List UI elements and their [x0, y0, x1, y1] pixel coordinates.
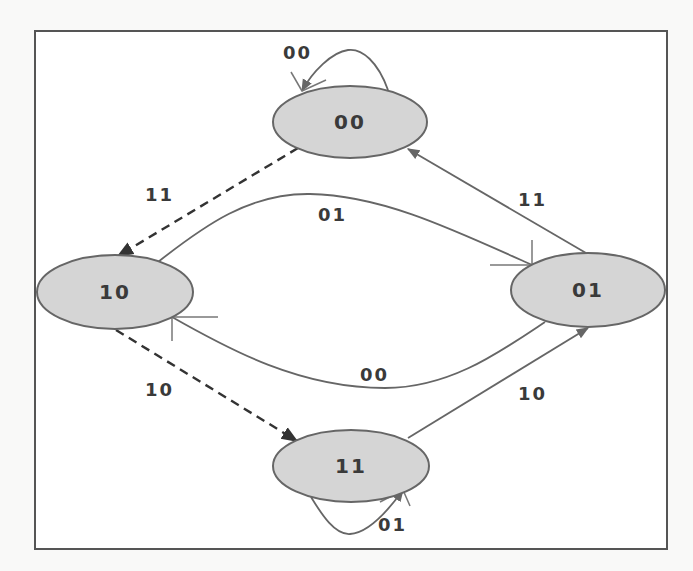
transition-label-01-00: 11 [518, 189, 547, 210]
state-label-00: 00 [334, 110, 366, 134]
transition-label-00-10: 11 [145, 184, 174, 205]
transition-label-11-01: 10 [518, 383, 547, 404]
transition-label-10-01: 01 [318, 204, 347, 225]
state-01: 01 [511, 253, 665, 327]
state-00: 00 [273, 86, 427, 158]
state-label-10: 10 [99, 280, 131, 304]
state-label-11: 11 [335, 454, 367, 478]
state-label-01: 01 [572, 278, 604, 302]
transition-label-11-self: 01 [378, 514, 407, 535]
state-11: 11 [273, 430, 429, 502]
state-diagram: 00 11 01 11 00 10 10 01 00 10 01 11 [0, 0, 693, 571]
state-10: 10 [37, 255, 193, 329]
transition-label-00-self: 00 [283, 42, 312, 63]
transition-label-10-11: 10 [145, 379, 174, 400]
transition-label-01-10: 00 [360, 364, 389, 385]
